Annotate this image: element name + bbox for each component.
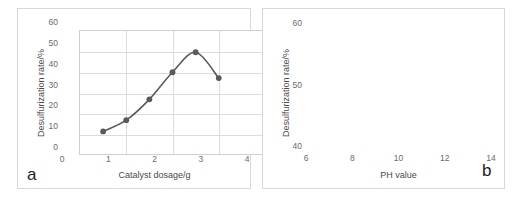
data-point (100, 129, 106, 135)
x-axis-title-b: PH value (306, 171, 491, 180)
data-series-a (80, 31, 265, 156)
y-tick-label: 50 (36, 39, 58, 48)
y-tick-label: 40 (36, 60, 58, 69)
y-axis-title-b: Desulfurization rate/% (282, 49, 291, 137)
chart-panel-a: Desulfurization rate/% 0102030405060 012… (17, 8, 251, 189)
y-tick-label: 30 (36, 81, 58, 90)
x-tick-label: 1 (96, 155, 120, 164)
series-line (103, 52, 219, 131)
y-tick-label: 60 (36, 18, 58, 27)
x-tick-label: 12 (433, 154, 457, 163)
x-tick-label: 3 (189, 155, 213, 164)
x-tick-label: 2 (143, 155, 167, 164)
y-tick-label: 20 (36, 101, 58, 110)
x-tick-label: 10 (387, 154, 411, 163)
data-point (146, 96, 152, 102)
y-tick-label: 0 (36, 143, 58, 152)
y-tick-label: 10 (36, 122, 58, 131)
x-tick-label: 4 (235, 155, 259, 164)
x-tick-label: 6 (294, 154, 318, 163)
data-point (216, 75, 222, 81)
x-tick-label: 8 (340, 154, 364, 163)
y-tick-label: 60 (280, 19, 302, 28)
plot-area-a (79, 30, 264, 155)
data-point (193, 49, 199, 55)
data-point (170, 69, 176, 75)
chart-panel-b: Desulfurization rate/% 405060 68101214 P… (262, 8, 505, 189)
y-tick-label: 50 (280, 81, 302, 90)
panel-label-b: b (482, 162, 491, 179)
x-axis-title-a: Catalyst dosage/g (62, 171, 247, 180)
x-tick-label: 0 (50, 155, 74, 164)
y-tick-label: 40 (280, 142, 302, 151)
figure-container: Desulfurization rate/% 0102030405060 012… (0, 0, 519, 199)
panel-label-a: a (27, 166, 36, 183)
data-point (123, 117, 129, 123)
